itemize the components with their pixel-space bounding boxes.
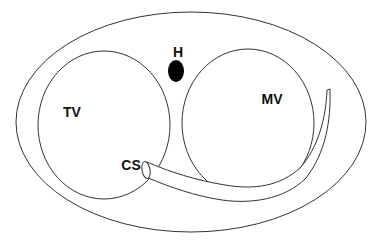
diagram-canvas: H TV MV CS [0,0,382,242]
h-dot [168,60,184,82]
label-tv: TV [63,105,81,119]
label-mv: MV [262,92,283,106]
label-h: H [173,45,183,59]
label-cs: CS [121,158,140,172]
diagram-svg [0,0,382,242]
cs-tube [147,89,330,201]
